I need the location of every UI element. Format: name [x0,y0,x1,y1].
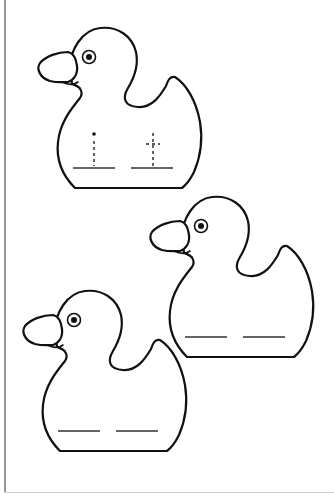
worksheet-page [0,0,334,495]
duck-3 [23,291,186,451]
duck-2 [150,197,313,357]
duck-1 [38,28,201,188]
worksheet-drawing [0,0,334,495]
